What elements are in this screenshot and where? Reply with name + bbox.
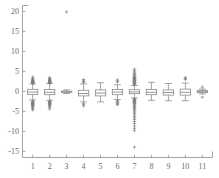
y-tick-label: -5	[12, 107, 19, 116]
boxplot-group-9	[163, 84, 173, 101]
outlier-marker	[133, 145, 136, 148]
x-tick-label: 8	[149, 162, 153, 171]
boxplot-group-8	[146, 82, 156, 100]
boxplot-group-4	[78, 78, 88, 108]
x-tick-label: 3	[65, 162, 69, 171]
outlier-marker	[82, 81, 85, 84]
outlier-marker	[116, 80, 119, 83]
x-tick-label: 1	[31, 162, 35, 171]
boxplot-group-10	[180, 76, 190, 101]
boxplot-group-11	[197, 85, 207, 98]
boxplot-group-3	[61, 10, 71, 93]
boxplot-group-6	[112, 78, 122, 106]
boxplot-canvas: 20151050-5-10-15 1234567891011	[0, 0, 219, 178]
x-tick-label: 9	[166, 162, 170, 171]
outlier-marker	[133, 129, 136, 132]
x-tick-label: 6	[116, 162, 120, 171]
x-axis-ticks: 1234567891011	[31, 155, 206, 171]
outlier-marker	[116, 103, 119, 106]
x-tick-label: 7	[132, 162, 136, 171]
y-tick-label: 5	[15, 67, 19, 76]
boxplot-group-1	[27, 75, 37, 111]
box-series-group	[27, 10, 207, 149]
y-tick-label: -15	[8, 147, 19, 156]
outlier-marker	[201, 95, 204, 98]
boxplot-group-2	[44, 76, 54, 111]
boxplot-figure: 20151050-5-10-15 1234567891011	[0, 0, 219, 178]
y-tick-label: 10	[11, 47, 19, 56]
x-tick-label: 5	[99, 162, 103, 171]
x-tick-label: 2	[48, 162, 52, 171]
outlier-marker	[201, 85, 204, 88]
outlier-marker	[48, 107, 51, 110]
x-tick-label: 4	[82, 162, 86, 171]
x-tick-label: 11	[198, 162, 206, 171]
y-tick-label: 15	[11, 27, 19, 36]
x-tick-label: 10	[181, 162, 189, 171]
y-tick-label: 0	[15, 87, 19, 96]
outlier-marker	[184, 78, 187, 81]
outlier-marker	[65, 10, 68, 13]
y-tick-label: -10	[8, 127, 19, 136]
boxplot-group-7	[129, 67, 139, 148]
y-tick-label: 20	[11, 7, 19, 16]
boxplot-group-5	[95, 83, 105, 102]
